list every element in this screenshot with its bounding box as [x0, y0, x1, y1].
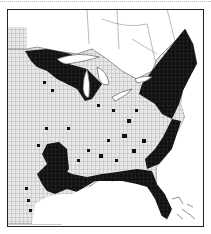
distribution-map	[7, 9, 204, 227]
map-svg	[7, 9, 204, 227]
top-dotted-border	[0, 1, 211, 2]
